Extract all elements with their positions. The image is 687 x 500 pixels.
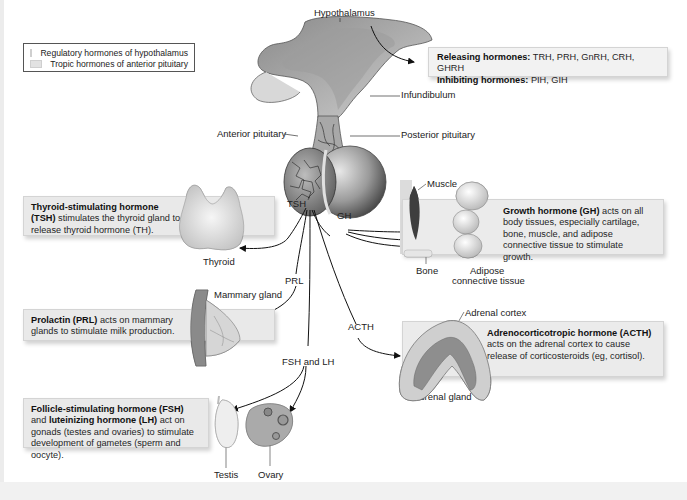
prl-heading: Prolactin (PRL) [31,315,97,325]
label-adipose-connective: connective tissue [452,276,525,287]
acth-text: acts on the adrenal cortex to cause rele… [487,339,645,360]
label-testis: Testis [214,470,238,481]
label-posterior-pituitary: Posterior pituitary [401,130,475,141]
prl-description: Prolactin (PRL) acts on mammary glands t… [31,315,181,338]
box-gh: Growth hormone (GH) acts on all body tis… [402,199,664,255]
tsh-description: Thyroid-stimulating hormone (TSH) stimul… [31,202,181,236]
testis-shape [215,400,238,448]
arrow-label-prl: PRL [285,275,303,286]
arrow-label-acth: ACTH [348,321,374,332]
arrow-label-fsh-lh: FSH and LH [282,356,334,367]
tsh-heading: Thyroid-stimulating hormone [31,202,159,212]
legend-label: Regulatory hormones of hypothalamus [40,48,188,58]
box-hypothalamic-hormones: Releasing hormones: TRH, PRH, GnRH, CRH,… [428,47,668,77]
gh-heading: Growth hormone (GH) [503,206,599,216]
inhibiting-hormones-line: Inhibiting hormones: PIH, GIH [437,75,659,86]
label-thyroid: Thyroid [203,257,235,268]
acth-description: Adrenocorticotropic hormone (ACTH) acts … [487,328,655,362]
arrow-label-tsh: TSH [287,198,306,209]
gh-description: Growth hormone (GH) acts on all body tis… [503,206,655,263]
label-adrenal-cortex: Adrenal cortex [465,308,526,319]
fsh-heading: Follicle-stimulating hormone (FSH) [31,404,184,414]
legend-swatch-tropic [30,60,42,68]
releasing-hormones-line: Releasing hormones: TRH, PRH, GnRH, CRH,… [437,52,659,75]
label-anterior-pituitary: Anterior pituitary [217,129,286,140]
label-ovary: Ovary [258,470,283,481]
box-fsh-lh: Follicle-stimulating hormone (FSH)and lu… [23,398,209,448]
legend-item-regulatory: Regulatory hormones of hypothalamus [30,47,188,58]
releasing-hormones-heading: Releasing hormones: [437,52,530,62]
box-tsh: Thyroid-stimulating hormone (TSH) stimul… [23,196,275,236]
inhibiting-hormones-list: PIH, GIH [528,75,567,85]
label-infundibulum: Infundibulum [401,90,455,101]
tsh-abbrev: (TSH) [31,213,56,223]
acth-heading: Adrenocorticotropic hormone (ACTH) [487,328,651,338]
fsh-lh-description: Follicle-stimulating hormone (FSH)and lu… [31,404,201,461]
legend-item-tropic: Tropic hormones of anterior pituitary [30,58,188,69]
fsh-lh-connector: and [31,415,49,425]
label-bone: Bone [416,266,438,277]
label-adrenal-gland: Adrenal gland [413,392,472,403]
legend: Regulatory hormones of hypothalamus Trop… [23,43,195,72]
legend-swatch-regulatory [30,49,32,57]
arrow-label-gh: GH [337,210,351,221]
legend-label: Tropic hormones of anterior pituitary [50,59,188,69]
lh-heading: luteinizing hormone (LH) [49,415,157,425]
inhibiting-hormones-heading: Inhibiting hormones: [437,75,528,85]
label-muscle: Muscle [427,179,457,190]
box-prl: Prolactin (PRL) acts on mammary glands t… [23,309,275,341]
label-mammary-gland: Mammary gland [214,290,282,301]
label-hypothalamus: Hypothalamus [314,8,375,19]
box-acth: Adrenocorticotropic hormone (ACTH) acts … [402,321,664,377]
hypothalamus-shape [251,17,432,119]
